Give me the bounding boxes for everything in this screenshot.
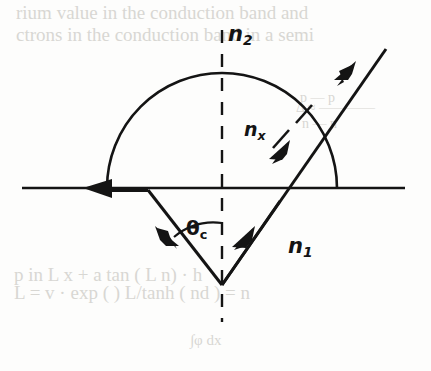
grazing-ray-arrowhead [83, 179, 112, 198]
label-n2: n2 [228, 22, 253, 48]
label-theta-c: θc [186, 216, 207, 242]
label-theta-c-base: θ [186, 216, 200, 240]
label-nx-subscript: x [258, 128, 266, 143]
optics-diagram-svg [0, 0, 431, 371]
label-theta-c-subscript: c [200, 227, 208, 242]
label-n1-subscript: 1 [303, 244, 313, 260]
reflected-ray-arrowhead-lower-b [269, 140, 290, 160]
v-right-segment [222, 201, 280, 285]
label-nx-base: n [244, 118, 258, 140]
reflected-ray-arrowhead-upper-b [334, 61, 356, 80]
label-n2-subscript: 2 [243, 32, 253, 48]
figure-canvas: rium value in the conduction band and ct… [0, 0, 431, 371]
label-n2-base: n [228, 22, 243, 46]
incident-ray-line [148, 190, 222, 285]
label-n1-base: n [288, 234, 303, 258]
label-n1: n1 [288, 234, 313, 260]
label-nx: nx [244, 118, 266, 143]
